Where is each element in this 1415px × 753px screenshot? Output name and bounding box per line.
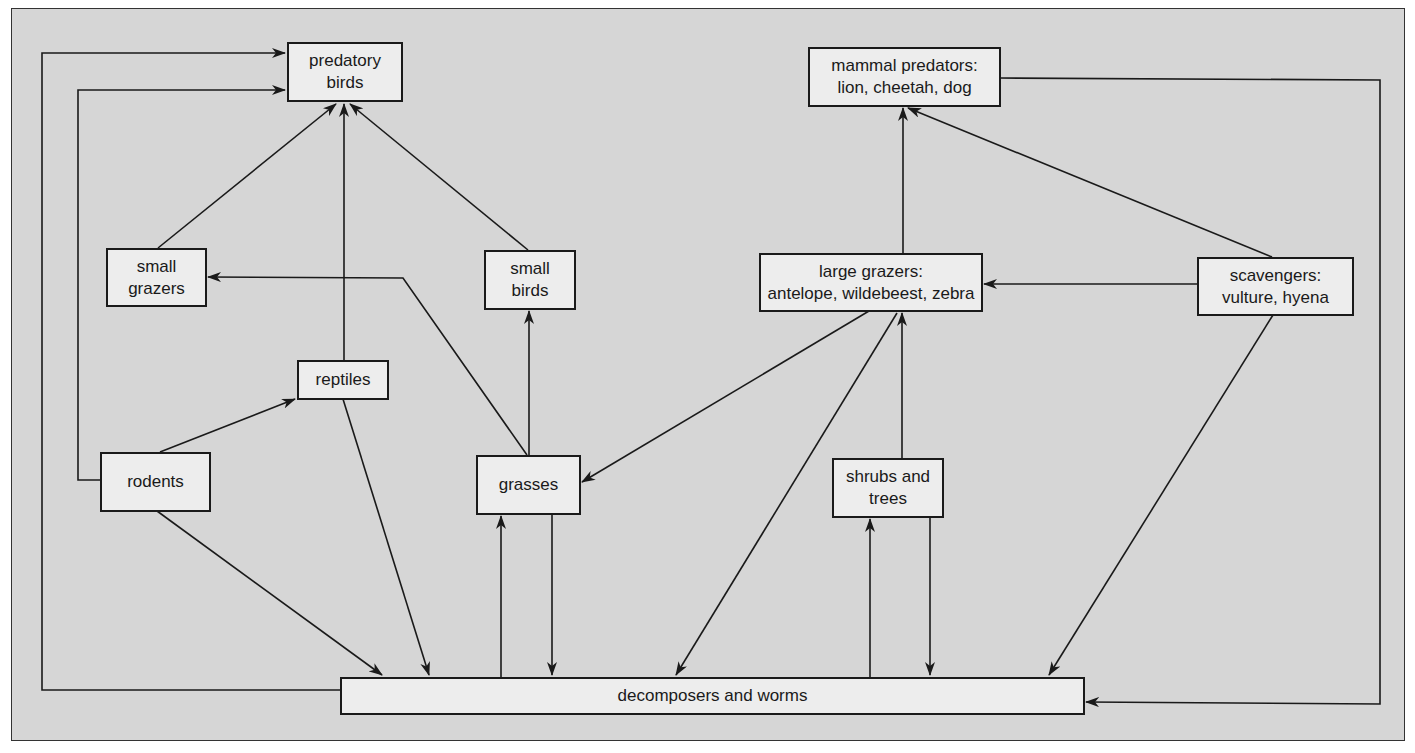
edge-small-grazers-to-predatory-birds — [158, 104, 336, 248]
edge-large-grazers-to-grasses — [582, 311, 869, 482]
node-rodents: rodents — [100, 452, 211, 512]
edge-reptiles-to-decomposers — [343, 399, 429, 675]
node-grasses: grasses — [476, 455, 581, 515]
edge-decomposers-to-predatory-birds — [42, 53, 340, 690]
node-reptiles: reptiles — [297, 360, 389, 400]
edge-rodents-to-reptiles — [160, 399, 295, 452]
node-scavengers: scavengers: vulture, hyena — [1197, 257, 1354, 316]
node-small-grazers: small grazers — [106, 248, 207, 307]
edge-rodents-to-decomposers — [157, 511, 382, 675]
food-web-edges — [0, 0, 1415, 753]
node-large-grazers: large grazers: antelope, wildebeest, zeb… — [759, 253, 983, 312]
node-small-birds: small birds — [484, 250, 576, 310]
edge-small-birds-to-predatory-birds — [350, 104, 528, 250]
edge-scavengers-to-mammal-predators — [908, 108, 1272, 257]
edge-mammal-predators-to-decomposers — [1000, 78, 1380, 704]
node-decomposers-and-worms: decomposers and worms — [340, 677, 1085, 715]
node-mammal-predators: mammal predators: lion, cheetah, dog — [808, 47, 1001, 107]
node-predatory-birds: predatory birds — [287, 42, 403, 102]
node-shrubs-and-trees: shrubs and trees — [832, 458, 944, 518]
edge-scavengers-to-decomposers — [1049, 315, 1273, 675]
